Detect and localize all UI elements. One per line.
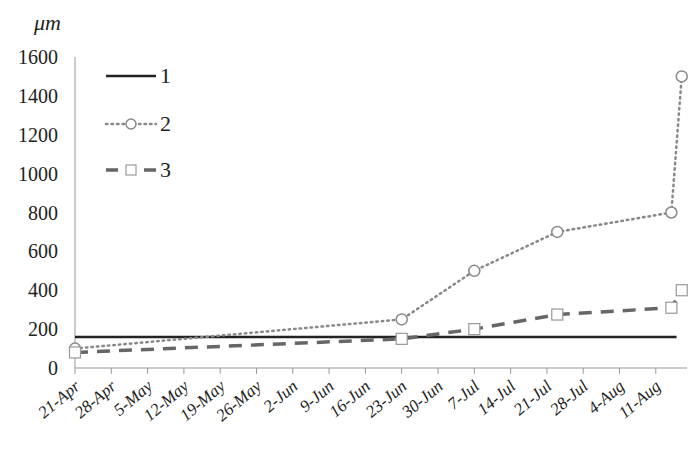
circle-marker-icon [666, 207, 677, 218]
y-tick-label: 1200 [18, 124, 58, 146]
legend-label-2: 2 [160, 111, 171, 136]
legend-item-3: 3 [106, 157, 171, 182]
y-tick-label: 1000 [18, 163, 58, 185]
circle-marker-icon [552, 226, 563, 237]
x-tick-label: 23-Jun [362, 377, 410, 422]
square-marker-icon [126, 165, 136, 175]
square-marker-icon [469, 324, 480, 335]
y-tick-label: 1400 [18, 85, 58, 107]
x-tick-label: 21-Jul [510, 376, 556, 419]
circle-marker-icon [126, 119, 136, 129]
x-tick-label: 30-Jun [397, 377, 446, 423]
square-marker-icon [552, 309, 563, 320]
x-tick-label: 28-Apr [71, 376, 120, 422]
y-axis-ticks: 02004006008001000120014001600 [18, 46, 58, 379]
x-tick-label: 11-Aug [615, 377, 665, 423]
x-tick-label: 14-Jul [474, 376, 520, 419]
x-tick-label: 16-Jun [326, 377, 374, 422]
square-marker-icon [396, 333, 407, 344]
square-marker-icon [666, 302, 677, 313]
circle-marker-icon [676, 71, 687, 82]
y-tick-label: 600 [28, 240, 58, 262]
square-marker-icon [676, 285, 687, 296]
x-axis-ticks: 21-Apr28-Apr5-May12-May19-May26-May2-Jun… [34, 368, 664, 425]
y-axis-unit-label: μm [33, 10, 61, 35]
y-tick-label: 1600 [18, 46, 58, 68]
legend-item-1: 1 [106, 63, 171, 88]
circle-marker-icon [469, 265, 480, 276]
y-tick-label: 400 [28, 279, 58, 301]
legend-item-2: 2 [106, 111, 171, 136]
circle-marker-icon [396, 314, 407, 325]
x-tick-label: 28-Jul [546, 376, 592, 419]
square-marker-icon [70, 347, 81, 358]
legend: 1 2 3 [106, 63, 171, 182]
line-chart: μm 02004006008001000120014001600 21-Apr2… [0, 0, 697, 461]
x-tick-label: 2-Jun [259, 377, 301, 416]
legend-label-1: 1 [160, 63, 171, 88]
y-tick-label: 0 [48, 357, 58, 379]
legend-label-3: 3 [160, 157, 171, 182]
y-tick-label: 800 [28, 202, 58, 224]
y-tick-label: 200 [28, 318, 58, 340]
